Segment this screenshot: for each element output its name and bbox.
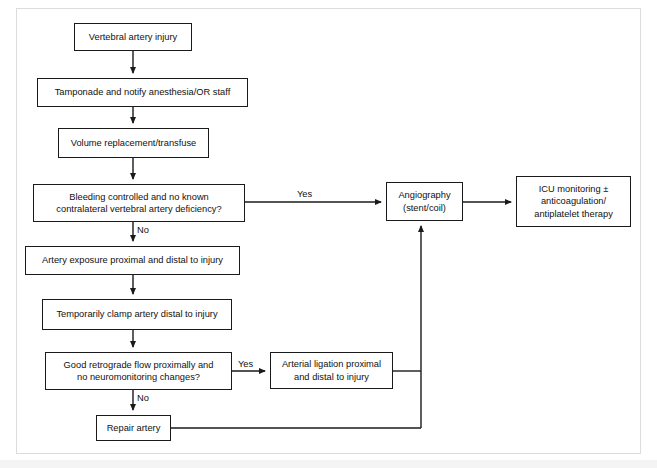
edge-label-bleeding-yes: Yes [297,189,312,200]
node-label-line-1: ICU monitoring ± [539,183,609,195]
node-label: Volume replacement/transfuse [71,137,197,149]
node-label: Tamponade and notify anesthesia/OR staff [55,86,231,98]
node-label: Artery exposure proximal and distal to i… [42,254,223,266]
node-retrograde-flow-decision[interactable]: Good retrograde flow proximally and no n… [45,352,232,390]
node-tamponade-notify[interactable]: Tamponade and notify anesthesia/OR staff [37,78,248,107]
node-label-line-2: contralateral vertebral artery deficienc… [56,203,221,215]
node-label-line-2: no neuromonitoring changes? [77,371,200,383]
flowchart-figure: Vertebral artery injury Tamponade and no… [0,0,657,468]
node-label: Vertebral artery injury [89,31,177,43]
node-bleeding-controlled-decision[interactable]: Bleeding controlled and no known contral… [33,184,245,222]
edge-label-retrograde-yes: Yes [238,359,253,370]
node-label-line-3: antiplatelet therapy [534,208,613,220]
node-vertebral-artery-injury[interactable]: Vertebral artery injury [74,23,192,51]
node-label-line-1: Arterial ligation proximal [282,358,381,370]
node-repair-artery[interactable]: Repair artery [96,415,171,441]
node-label-line-1: Good retrograde flow proximally and [64,359,214,371]
flowchart-connectors [0,0,657,468]
page-bottom-band [0,460,657,468]
node-label-line-2: anticoagulation/ [541,195,606,207]
edge-label-retrograde-no: No [137,393,149,404]
edge-label-bleeding-no: No [137,225,149,236]
node-volume-replacement[interactable]: Volume replacement/transfuse [58,128,209,158]
node-arterial-ligation[interactable]: Arterial ligation proximal and distal to… [270,352,393,389]
node-label: Repair artery [107,422,161,434]
node-label-line-1: Angiography [398,189,450,201]
node-angiography[interactable]: Angiography (stent/coil) [386,182,463,221]
node-label: Temporarily clamp artery distal to injur… [56,308,217,320]
node-label-line-2: (stent/coil) [403,202,446,214]
node-label-line-2: and distal to injury [294,371,369,383]
node-icu-monitoring[interactable]: ICU monitoring ± anticoagulation/ antipl… [516,176,631,227]
node-label-line-1: Bleeding controlled and no known [69,191,209,203]
node-temporarily-clamp[interactable]: Temporarily clamp artery distal to injur… [42,299,232,330]
node-artery-exposure[interactable]: Artery exposure proximal and distal to i… [25,246,240,275]
